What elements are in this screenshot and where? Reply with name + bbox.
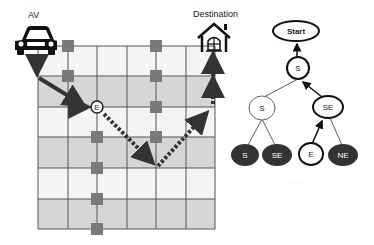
tree-node-ne-l3: NE: [328, 144, 358, 166]
obstacle-square: [62, 40, 74, 52]
waypoint-e: E: [91, 101, 103, 113]
tree-node-s-l3: S: [231, 144, 259, 166]
obstacle-square: [91, 162, 103, 174]
tree-node-se-l3: SE: [262, 144, 292, 166]
start-label: AV: [28, 10, 39, 20]
tree-node-s-l2: S: [249, 96, 275, 120]
tree-node-label: E: [308, 150, 313, 159]
tree-node-label: Start: [287, 27, 306, 36]
destination-label: Destination: [193, 9, 238, 19]
tree-node-e-l3: E: [299, 143, 323, 165]
house-icon: [198, 24, 230, 52]
diagram-canvas: E: [0, 0, 374, 245]
obstacle-square: [62, 70, 74, 82]
tree-node-label: S: [242, 151, 247, 160]
tree-node-start: Start: [273, 21, 319, 41]
obstacle-square: [91, 131, 103, 143]
obstacle-square: [91, 193, 103, 205]
tree-node-s: S: [287, 57, 309, 79]
waypoint-label: E: [94, 103, 99, 112]
obstacle-square: [150, 101, 162, 113]
search-tree: Start S S SE S SE: [231, 21, 358, 185]
tree-ellipsis: · · ·: [291, 179, 300, 185]
obstacle-square: [150, 40, 162, 52]
tree-node-label: S: [295, 64, 300, 73]
tree-node-label: S: [259, 104, 264, 113]
tree-node-se-l2: SE: [313, 96, 343, 118]
obstacle-square: [91, 223, 103, 235]
tree-node-label: SE: [272, 151, 283, 160]
tree-node-label: SE: [323, 103, 334, 112]
obstacle-square: [150, 131, 162, 143]
obstacle-square: [150, 70, 162, 82]
car-icon: [15, 26, 57, 55]
tree-node-label: NE: [337, 151, 348, 160]
